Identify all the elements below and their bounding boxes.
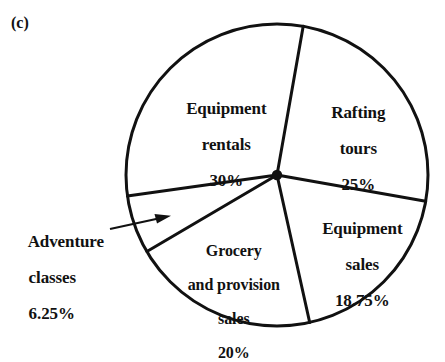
slice-label-equipment-rentals-line1: Equipment	[186, 99, 266, 118]
slice-label-equipment-rentals: Equipment rentals 30%	[152, 82, 284, 208]
slice-value-equipment-rentals: 30%	[209, 171, 243, 190]
slice-label-adventure-line1: Adventure	[28, 232, 104, 251]
slice-label-adventure-line2: classes	[29, 268, 76, 287]
slice-label-rafting-tours-line2: tours	[340, 139, 377, 158]
slice-label-grocery-line3: sales	[218, 310, 250, 327]
slice-label-grocery-line2: and provision	[188, 276, 280, 293]
slice-label-equipment-rentals-line2: rentals	[202, 135, 251, 154]
slice-value-adventure: 6.25%	[29, 304, 75, 323]
slice-label-grocery-and-provision-sales: Grocery and provision sales 20%	[159, 226, 293, 362]
slice-value-equipment-sales: 18.75%	[335, 291, 390, 310]
slice-label-rafting-tours: Rafting tours 25%	[307, 86, 393, 212]
slice-label-equipment-sales: Equipment sales 18.75%	[293, 202, 415, 328]
slice-label-grocery-line1: Grocery	[206, 242, 262, 259]
slice-label-adventure-classes: Adventure classes 6.25%	[12, 215, 116, 341]
slice-label-equipment-sales-line1: Equipment	[322, 219, 402, 238]
slice-value-rafting-tours: 25%	[341, 175, 375, 194]
slice-label-equipment-sales-line2: sales	[346, 255, 380, 274]
slice-label-rafting-tours-line1: Rafting	[331, 103, 385, 122]
slice-value-grocery: 20%	[218, 344, 250, 361]
